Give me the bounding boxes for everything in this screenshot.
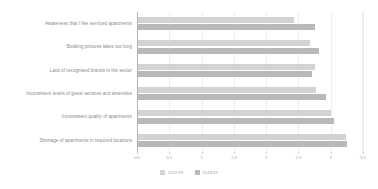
- axis-tick-mark: [298, 152, 299, 154]
- bar-group: [138, 129, 363, 152]
- bar: [138, 141, 347, 147]
- bar: [138, 71, 312, 77]
- bar: [138, 40, 310, 46]
- legend-label: 2018/19: [203, 170, 218, 175]
- bar-group: [138, 105, 363, 128]
- axis-tick-label: 3.5: [360, 155, 366, 160]
- category-label: Lack of recognised brands in the sector: [50, 68, 132, 73]
- category-axis: Awareness that I like serviced apartment…: [0, 12, 137, 152]
- axis-tick-label: 1: [200, 155, 202, 160]
- bar: [138, 87, 316, 93]
- axis-tick-label: 3: [330, 155, 332, 160]
- legend-swatch-icon: [195, 170, 200, 175]
- bar-group: [138, 82, 363, 105]
- category-label-cell: Inconsistent quality of apartments: [0, 105, 137, 128]
- legend-label: 2017/18: [168, 170, 183, 175]
- axis-tick-label: 0%: [134, 155, 140, 160]
- value-axis: 0%0.511.522.533.5: [137, 152, 363, 164]
- bar: [138, 48, 319, 54]
- bar-chart: Awareness that I like serviced apartment…: [0, 0, 378, 189]
- category-label-cell: Shortage of apartments in required locat…: [0, 129, 137, 152]
- legend-swatch-icon: [160, 170, 165, 175]
- bar-group: [138, 59, 363, 82]
- bar: [138, 24, 315, 30]
- axis-tick-label: 0.5: [166, 155, 172, 160]
- legend-item[interactable]: 2018/19: [195, 170, 218, 175]
- plot-area: [137, 12, 363, 152]
- bar: [138, 17, 294, 23]
- category-label: Awareness that I like serviced apartment…: [45, 21, 132, 26]
- chart-legend: 2017/182018/19: [0, 170, 378, 175]
- axis-tick-label: 2: [265, 155, 267, 160]
- bar: [138, 64, 315, 70]
- bar: [138, 94, 326, 100]
- axis-tick-mark: [331, 152, 332, 154]
- bars-layer: [138, 12, 363, 152]
- category-label: Inconsistent quality of apartments: [62, 114, 132, 119]
- category-label-cell: Inconsistent levels of guest services an…: [0, 82, 137, 105]
- category-label-cell: Lack of recognised brands in the sector: [0, 59, 137, 82]
- axis-tick-mark: [169, 152, 170, 154]
- bar: [138, 110, 331, 116]
- axis-tick-label: 1.5: [231, 155, 237, 160]
- legend-item[interactable]: 2017/18: [160, 170, 183, 175]
- category-label-cell: Booking process takes too long: [0, 35, 137, 58]
- category-label: Booking process takes too long: [67, 44, 132, 49]
- axis-tick-mark: [363, 152, 364, 154]
- axis-tick-mark: [266, 152, 267, 154]
- category-label: Shortage of apartments in required locat…: [39, 138, 132, 143]
- axis-tick-label: 2.5: [296, 155, 302, 160]
- category-label-cell: Awareness that I like serviced apartment…: [0, 12, 137, 35]
- bar-group: [138, 12, 363, 35]
- axis-tick-mark: [137, 152, 138, 154]
- axis-tick-mark: [202, 152, 203, 154]
- bar: [138, 118, 334, 124]
- bar: [138, 134, 346, 140]
- bar-group: [138, 35, 363, 58]
- category-label: Inconsistent levels of guest services an…: [26, 91, 132, 96]
- gridline: [363, 12, 364, 152]
- axis-tick-mark: [234, 152, 235, 154]
